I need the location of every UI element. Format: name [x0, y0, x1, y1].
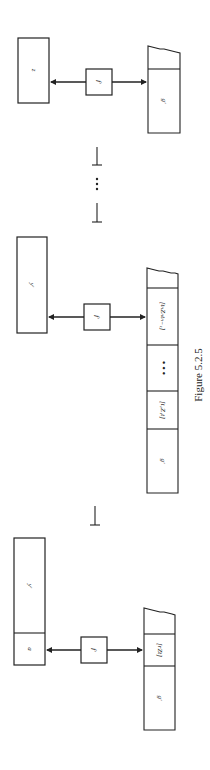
tape-cell-label: g': [159, 459, 167, 465]
configuration-1: y' a f' [rZt] g': [14, 538, 175, 730]
tape: [tₙZₙtₙ₋₁] • • • [t₁Z₁t] g': [147, 268, 178, 493]
configuration-2: y' f' [tₙZₙtₙ₋₁] • • • [t₁Z₁t] g': [17, 237, 178, 493]
control-label: f': [95, 80, 103, 84]
figure-canvas: z f' g' y' f': [0, 0, 210, 770]
tape-cell-label: [t₁Z₁t]: [159, 401, 167, 419]
turnstile-separator: [92, 147, 102, 165]
tape-cell-label: g': [156, 696, 164, 702]
tape-torn-edge: [144, 608, 175, 730]
output-box: [14, 538, 45, 665]
control-label: f': [90, 648, 98, 652]
tape: [rZt] g': [144, 608, 175, 730]
tape-torn-edge: [148, 46, 180, 133]
figure-caption: Figure 5.2.5: [192, 348, 204, 402]
output-label: y': [28, 282, 36, 288]
tape-cell-label: [rZt]: [156, 643, 164, 657]
configuration-3: z f' g': [18, 38, 180, 133]
output-label: y': [26, 583, 34, 589]
turnstile-separator: [90, 506, 100, 525]
control-label: f': [93, 315, 101, 319]
output-label: z: [30, 68, 38, 72]
tape-cell-label: [tₙZₙtₙ₋₁]: [159, 302, 167, 331]
output-label: a: [26, 647, 34, 651]
turnstile-separator: [92, 203, 102, 222]
ellipsis-separator: [96, 178, 98, 190]
tape-cell-ellipsis: • • •: [159, 361, 169, 375]
tape-cell-label: g': [160, 99, 168, 105]
tape: g': [148, 46, 180, 133]
